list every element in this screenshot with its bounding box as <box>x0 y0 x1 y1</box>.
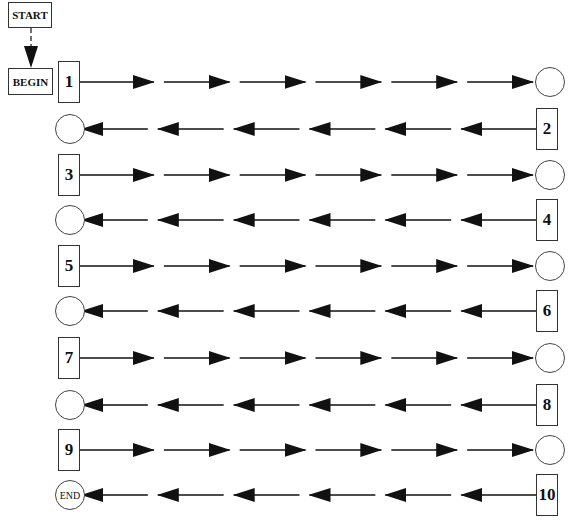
step-box-3: 3 <box>58 154 80 196</box>
step-box-2: 2 <box>536 108 558 150</box>
step-number: 3 <box>65 165 74 185</box>
connector-circle <box>55 205 85 235</box>
connector-circle <box>535 435 565 465</box>
start-box: START <box>8 2 52 28</box>
start-label: START <box>12 9 47 21</box>
arrow-layer <box>0 0 570 523</box>
end-label: END <box>60 490 81 501</box>
begin-label: BEGIN <box>13 76 48 88</box>
step-box-9: 9 <box>58 429 80 471</box>
step-number: 5 <box>65 256 74 276</box>
step-box-7: 7 <box>58 337 80 379</box>
step-number: 2 <box>543 119 552 139</box>
step-box-10: 10 <box>536 474 558 516</box>
end-node: END <box>55 480 85 510</box>
connector-circle <box>55 114 85 144</box>
step-number: 4 <box>543 210 552 230</box>
step-number: 8 <box>543 395 552 415</box>
connector-circle <box>535 160 565 190</box>
step-box-8: 8 <box>536 384 558 426</box>
connector-circle <box>55 390 85 420</box>
connector-circle <box>535 251 565 281</box>
step-box-1: 1 <box>58 61 80 103</box>
step-number: 10 <box>539 485 556 505</box>
step-number: 6 <box>543 301 552 321</box>
step-box-5: 5 <box>58 245 80 287</box>
step-box-4: 4 <box>536 199 558 241</box>
connector-circle <box>535 343 565 373</box>
begin-box: BEGIN <box>8 68 53 95</box>
connector-circle <box>535 67 565 97</box>
step-number: 9 <box>65 440 74 460</box>
flow-diagram: START BEGIN 12345678910END <box>0 0 570 523</box>
step-box-6: 6 <box>536 290 558 332</box>
connector-circle <box>55 296 85 326</box>
step-number: 7 <box>65 348 74 368</box>
step-number: 1 <box>65 72 74 92</box>
